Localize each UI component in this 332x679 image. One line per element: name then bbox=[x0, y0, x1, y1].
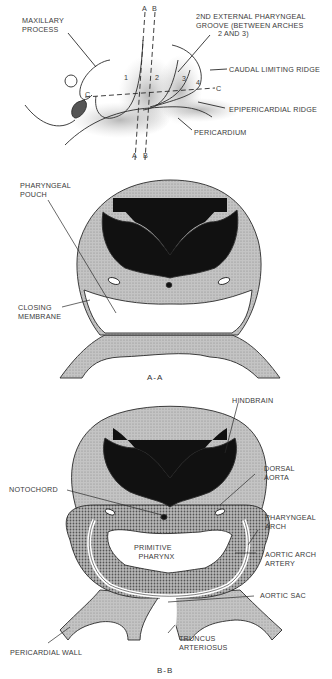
label-external-pharyngeal-groove: 2ND EXTERNAL PHARYNGEAL GROOVE (BETWEEN … bbox=[196, 13, 306, 39]
label-primitive-pharynx: PRIMITIVE PHARYNX bbox=[134, 544, 174, 561]
caption-section-b-b: B-B bbox=[157, 666, 173, 675]
label-epipericardial-ridge: EPIPERICARDIAL RIDGE bbox=[229, 106, 317, 115]
label-hindbrain: HINDBRAIN bbox=[232, 397, 273, 406]
label-pericardium: PERICARDIUM bbox=[194, 129, 247, 138]
diagram-canvas bbox=[0, 0, 332, 679]
label-section-a-bottom: A bbox=[132, 152, 137, 161]
label-caudal-limiting-ridge: CAUDAL LIMITING RIDGE bbox=[229, 66, 320, 75]
label-arch-2: 2 bbox=[155, 74, 159, 83]
label-maxillary-process: MAXILLARY PROCESS bbox=[22, 17, 64, 34]
label-arch-1: 1 bbox=[124, 74, 128, 83]
label-arch-4: 4 bbox=[196, 79, 200, 88]
label-section-c-right: C bbox=[216, 85, 221, 94]
caption-section-a-a: A-A bbox=[147, 373, 163, 382]
label-section-c-left: C bbox=[85, 91, 90, 100]
label-section-b-bottom: B bbox=[143, 152, 148, 161]
label-aortic-arch-artery: AORTIC ARCH ARTERY bbox=[265, 551, 316, 568]
label-section-a-top: A bbox=[142, 5, 147, 14]
label-arch-3: 3 bbox=[182, 75, 186, 84]
label-truncus-arteriosus: TRUNCUS ARTERIOSUS bbox=[179, 635, 228, 652]
label-pharyngeal-pouch: PHARYNGEAL POUCH bbox=[20, 182, 71, 199]
label-section-b-top: B bbox=[152, 5, 157, 14]
label-closing-membrane: CLOSING MEMBRANE bbox=[18, 304, 61, 321]
label-pharyngeal-arch: PHARYNGEAL ARCH bbox=[265, 514, 316, 531]
eye-circle bbox=[65, 75, 77, 87]
label-dorsal-aorta: DORSAL AORTA bbox=[264, 465, 295, 482]
section-a-a-panel bbox=[48, 180, 280, 378]
section-b-b-panel bbox=[48, 403, 282, 643]
label-pericardial-wall: PERICARDIAL WALL bbox=[10, 649, 82, 658]
label-notochord: NOTOCHORD bbox=[9, 486, 58, 495]
label-aortic-sac: AORTIC SAC bbox=[260, 592, 306, 601]
